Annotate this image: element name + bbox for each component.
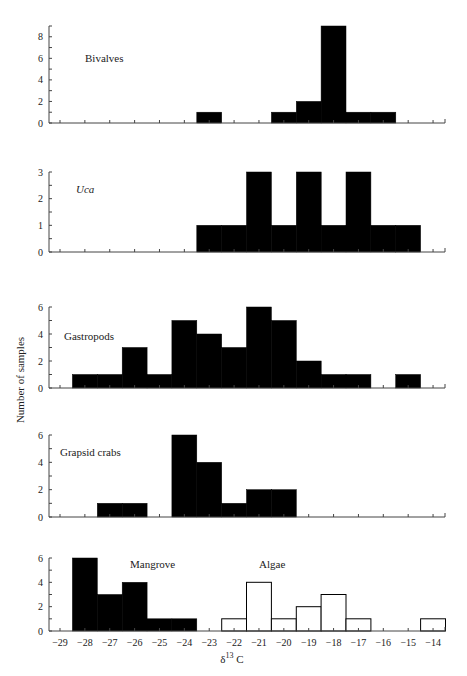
bar-algae (247, 582, 272, 631)
panel-label: Grapsid crabs (60, 446, 121, 458)
bar-gastropods (296, 361, 321, 388)
y-tick-label: 1 (38, 220, 43, 231)
y-tick-label: 0 (38, 383, 43, 394)
bar-mangrove (122, 582, 147, 631)
panels-group: 02468Bivalves0123Uca0246Gastropods0246Gr… (38, 26, 446, 637)
y-tick-label: 0 (38, 247, 43, 258)
x-tick-label: −24 (177, 637, 193, 648)
y-tick-label: 0 (38, 512, 43, 523)
x-tick-label: −20 (276, 637, 292, 648)
panel-uca: 0123Uca (38, 167, 445, 258)
panel-grapsid-crabs: 0246Grapsid crabs (38, 430, 445, 523)
bar-uca (197, 225, 222, 252)
x-tick-label: −27 (102, 637, 118, 648)
y-tick-label: 2 (38, 601, 43, 612)
bar-grapsid-crabs (247, 490, 272, 517)
y-tick-label: 4 (38, 74, 43, 85)
x-axis-title-element: C (234, 653, 244, 665)
histogram-figure: 02468Bivalves0123Uca0246Gastropods0246Gr… (0, 0, 467, 676)
x-tick-label: −21 (251, 637, 267, 648)
y-tick-label: 4 (38, 577, 43, 588)
y-tick-label: 2 (38, 484, 43, 495)
y-tick-label: 4 (38, 329, 43, 340)
x-tick-label: −18 (326, 637, 342, 648)
x-tick-label: −15 (400, 637, 416, 648)
x-tick-label: −16 (375, 637, 391, 648)
x-tick-label: −29 (52, 637, 68, 648)
y-tick-label: 6 (38, 302, 43, 313)
y-tick-label: 6 (38, 430, 43, 441)
bar-gastropods (222, 348, 247, 389)
bar-bivalves (296, 101, 321, 123)
bar-bivalves (321, 26, 346, 123)
bar-gastropods (122, 348, 147, 389)
bar-grapsid-crabs (271, 490, 296, 517)
y-tick-label: 8 (38, 31, 43, 42)
y-tick-label: 6 (38, 53, 43, 64)
bar-uca (222, 225, 247, 252)
bar-mangrove (72, 558, 97, 631)
bar-gastropods (172, 321, 197, 389)
y-tick-label: 0 (38, 626, 43, 637)
bar-gastropods (271, 321, 296, 389)
bar-algae (296, 607, 321, 631)
bar-gastropods (197, 334, 222, 388)
x-tick-label: −17 (351, 637, 367, 648)
x-axis-title: δ13 C (220, 651, 243, 665)
x-tick-label: −19 (301, 637, 317, 648)
x-tick-label: −23 (201, 637, 217, 648)
bar-uca (396, 225, 421, 252)
x-tick-label: −28 (77, 637, 93, 648)
y-tick-label: 3 (38, 167, 43, 178)
x-axis-tick-labels: −29−28−27−26−25−24−23−22−21−20−19−18−17−… (52, 637, 441, 648)
y-tick-label: 2 (38, 193, 43, 204)
x-axis-title-superscript: 13 (226, 651, 234, 660)
x-tick-label: −26 (127, 637, 143, 648)
y-tick-label: 2 (38, 356, 43, 367)
y-tick-label: 4 (38, 457, 43, 468)
bar-algae (321, 595, 346, 632)
y-tick-label: 0 (38, 118, 43, 129)
panel-label: Bivalves (85, 52, 124, 64)
x-tick-label: −25 (152, 637, 168, 648)
bar-gastropods (247, 307, 272, 388)
bar-uca (321, 225, 346, 252)
panel-gastropods: 0246Gastropods (38, 302, 445, 394)
y-tick-label: 6 (38, 553, 43, 564)
panel-label: Gastropods (64, 330, 114, 342)
bar-grapsid-crabs (172, 435, 197, 517)
y-axis-title: Number of samples (14, 337, 26, 423)
x-tick-label: −14 (425, 637, 441, 648)
bar-grapsid-crabs (197, 462, 222, 517)
y-tick-label: 2 (38, 96, 43, 107)
bar-uca (271, 225, 296, 252)
panel-mangrove-algae: 0246MangroveAlgae (38, 553, 446, 637)
bar-uca (247, 172, 272, 252)
bar-mangrove (97, 595, 122, 632)
panel-label: Uca (76, 183, 95, 195)
bar-uca (296, 172, 321, 252)
x-tick-label: −22 (226, 637, 242, 648)
bar-uca (371, 225, 396, 252)
panel-label-algae: Algae (259, 558, 285, 570)
panel-bivalves: 02468Bivalves (38, 26, 445, 129)
panel-label: Mangrove (130, 558, 175, 570)
bar-uca (346, 172, 371, 252)
